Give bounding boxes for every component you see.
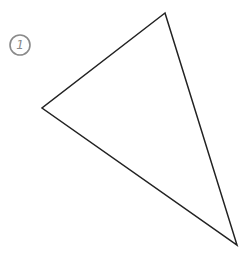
diagram-svg: 1 (0, 0, 250, 261)
diagram-canvas: 1 (0, 0, 250, 261)
triangle-shape (42, 13, 237, 245)
number-label: 1 (10, 35, 30, 55)
label-number: 1 (16, 38, 24, 52)
